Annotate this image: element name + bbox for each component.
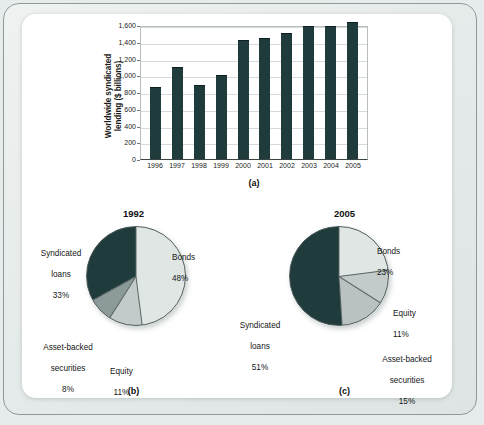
pie-c-synd-name1: Syndicated bbox=[240, 321, 281, 330]
y-axis-tick-mark bbox=[137, 93, 140, 94]
figure-root: Worldwide syndicated lending ($ billions… bbox=[0, 0, 484, 425]
x-axis-tick-label: 1998 bbox=[188, 162, 210, 169]
pie-c-equity-value: 11% bbox=[393, 330, 409, 339]
y-axis-tick-label: 1,400 bbox=[102, 39, 136, 46]
pie-slice-divider bbox=[136, 276, 143, 325]
x-axis-tick-label: 2004 bbox=[320, 162, 342, 169]
panel-c-caption: (c) bbox=[237, 386, 452, 396]
y-axis-tick-mark bbox=[137, 110, 140, 111]
y-axis-tick-mark bbox=[137, 143, 140, 144]
bar bbox=[238, 40, 249, 159]
y-axis-tick-label: 1,200 bbox=[102, 56, 136, 63]
pie-c-label-equity: Equity 11% bbox=[393, 298, 416, 340]
pie-c-label-syndicated-loans: Syndicated loans 51% bbox=[229, 310, 291, 373]
pie-slice-divider bbox=[93, 276, 136, 300]
pie-b-disc bbox=[86, 226, 186, 326]
pie-c-bonds-value: 23% bbox=[377, 268, 393, 277]
pie-b-synd-name1: Syndicated bbox=[41, 249, 82, 258]
pie-c-equity-name: Equity bbox=[393, 309, 416, 318]
bar-column bbox=[232, 27, 254, 159]
pie-b-equity-name: Equity bbox=[110, 367, 133, 376]
pie-c-label-bonds: Bonds 23% bbox=[377, 236, 400, 278]
pie-c-disc bbox=[289, 226, 389, 326]
pie-slice-divider bbox=[339, 276, 343, 325]
pie-b-abs-name1: Asset-backed bbox=[43, 343, 93, 352]
bar-chart-plot-wrapper: 02004006008001,0001,2001,4001,600 bbox=[140, 26, 368, 160]
bar-chart-bars bbox=[141, 27, 367, 159]
y-axis-tick-label: 0 bbox=[102, 156, 136, 163]
panel-b-caption: (b) bbox=[26, 386, 241, 396]
pie-c-title: 2005 bbox=[237, 208, 452, 219]
bar bbox=[281, 33, 292, 159]
y-axis-tick-label: 200 bbox=[102, 139, 136, 146]
bar bbox=[259, 38, 270, 159]
bar bbox=[194, 85, 205, 159]
panel-a-bar-chart: Worldwide syndicated lending ($ billions… bbox=[84, 18, 396, 204]
pie-c-abs-name2: securities bbox=[390, 376, 425, 385]
bar-column bbox=[341, 27, 363, 159]
pie-b-bonds-value: 48% bbox=[172, 274, 188, 283]
pie-slice-divider bbox=[339, 276, 381, 303]
y-axis-tick-label: 1,000 bbox=[102, 72, 136, 79]
panel-b-pie-chart-1992: 1992 Bonds 48% Equity 11% Asset-backed s… bbox=[26, 204, 241, 398]
bar bbox=[325, 26, 336, 159]
bar bbox=[150, 87, 161, 159]
y-axis-tick-mark bbox=[137, 160, 140, 161]
x-axis-tick-label: 2005 bbox=[342, 162, 364, 169]
y-axis-tick-label: 400 bbox=[102, 123, 136, 130]
bar-chart-plot-area bbox=[140, 26, 368, 160]
bar-column bbox=[167, 27, 189, 159]
pie-b-title: 1992 bbox=[26, 208, 241, 219]
pie-b-synd-value: 33% bbox=[53, 291, 69, 300]
y-axis-tick-label: 600 bbox=[102, 106, 136, 113]
x-axis-tick-label: 1997 bbox=[166, 162, 188, 169]
pie-slice-divider bbox=[339, 228, 340, 277]
bar-column bbox=[319, 27, 341, 159]
bar-column bbox=[298, 27, 320, 159]
y-axis-tick-label: 1,600 bbox=[102, 22, 136, 29]
y-axis-tick-mark bbox=[137, 60, 140, 61]
figure-inner-panel: Worldwide syndicated lending ($ billions… bbox=[22, 14, 452, 398]
bar-column bbox=[276, 27, 298, 159]
pie-c-abs-value: 15% bbox=[399, 397, 415, 406]
y-axis-tick-mark bbox=[137, 127, 140, 128]
pie-c-synd-name2: loans bbox=[250, 342, 270, 351]
panel-c-pie-chart-2005: 2005 Bonds 23% Equity 11% Asset-backed s… bbox=[237, 204, 452, 398]
bar-chart-x-axis-ticks: 1996199719981999200020012002200320042005 bbox=[140, 162, 368, 169]
x-axis-tick-label: 2003 bbox=[298, 162, 320, 169]
pie-b-label-syndicated-loans: Syndicated loans 33% bbox=[30, 238, 92, 301]
bar bbox=[303, 26, 314, 159]
pie-c-synd-value: 51% bbox=[252, 363, 268, 372]
x-axis-tick-label: 2001 bbox=[254, 162, 276, 169]
pie-c-bonds-name: Bonds bbox=[377, 247, 400, 256]
bar-column bbox=[145, 27, 167, 159]
bar bbox=[347, 22, 358, 159]
x-axis-tick-label: 1996 bbox=[144, 162, 166, 169]
pie-c-label-asset-backed-securities: Asset-backed securities 15% bbox=[365, 344, 449, 407]
bar-column bbox=[254, 27, 276, 159]
bar-column bbox=[189, 27, 211, 159]
bar bbox=[216, 75, 227, 159]
bar bbox=[172, 67, 183, 159]
y-axis-tick-label: 800 bbox=[102, 89, 136, 96]
pie-slice-divider bbox=[136, 228, 137, 277]
x-axis-tick-label: 2002 bbox=[276, 162, 298, 169]
pie-b-label-bonds: Bonds 48% bbox=[172, 242, 195, 284]
bar-column bbox=[210, 27, 232, 159]
y-axis-tick-mark bbox=[137, 76, 140, 77]
y-axis-tick-mark bbox=[137, 43, 140, 44]
panel-a-caption: (a) bbox=[140, 178, 368, 188]
pie-b-synd-name2: loans bbox=[51, 270, 71, 279]
pie-b-bonds-name: Bonds bbox=[172, 253, 195, 262]
pie-b-abs-name2: securities bbox=[51, 364, 86, 373]
x-axis-tick-label: 1999 bbox=[210, 162, 232, 169]
y-axis-tick-mark bbox=[137, 26, 140, 27]
x-axis-tick-label: 2000 bbox=[232, 162, 254, 169]
pie-c-abs-name1: Asset-backed bbox=[382, 355, 432, 364]
